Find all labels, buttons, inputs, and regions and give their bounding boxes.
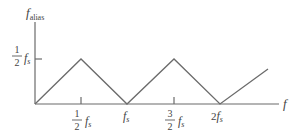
aliasing-diagram: falias 1 2 fs 1 2 fs fs 3 2 fs 2fs f: [0, 0, 292, 136]
x-tick-label-two-fs: 2fs: [211, 109, 223, 124]
svg-text:fs: fs: [123, 109, 129, 124]
svg-text:1: 1: [75, 108, 80, 119]
alias-frequency-curve: [35, 59, 268, 104]
x-tick-label-half-fs: 1 2 fs: [72, 108, 91, 132]
svg-text:fs: fs: [178, 114, 184, 129]
y-tick-label-half-fs: 1 2 fs: [12, 44, 30, 68]
svg-text:3: 3: [168, 108, 173, 119]
x-axis-label: f: [283, 96, 289, 111]
svg-text:1: 1: [15, 44, 20, 55]
svg-text:fs: fs: [24, 51, 30, 66]
x-tick-label-fs: fs: [123, 109, 129, 124]
y-axis-label: falias: [26, 5, 44, 22]
x-tick-label-three-halves-fs: 3 2 fs: [165, 108, 184, 132]
svg-text:fs: fs: [85, 114, 91, 129]
svg-text:2: 2: [15, 57, 20, 68]
svg-text:2: 2: [168, 121, 173, 132]
svg-text:2: 2: [75, 121, 80, 132]
svg-text:2fs: 2fs: [211, 109, 223, 124]
